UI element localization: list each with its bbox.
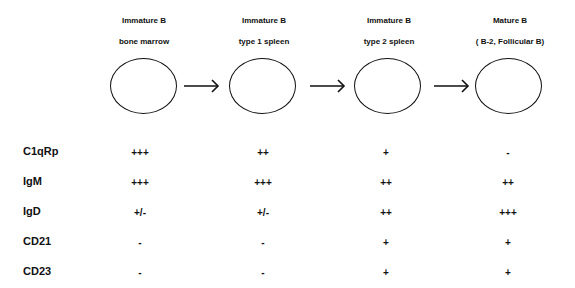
marker-value: +/- [120, 207, 160, 218]
stage-3-subtitle: type 2 spleen [329, 37, 449, 46]
stage-3-title: Immature B [329, 16, 449, 25]
marker-label: IgM [23, 175, 42, 187]
stage-4-cell [475, 58, 542, 114]
marker-value: ++ [488, 177, 528, 188]
stage-2-cell [229, 58, 296, 114]
right-arrow-icon [433, 78, 471, 94]
stage-3-cell [354, 58, 421, 114]
stage-1-title: Immature B [84, 16, 204, 25]
marker-label: CD21 [23, 235, 51, 247]
marker-value: + [366, 267, 406, 278]
marker-value: + [366, 237, 406, 248]
marker-value: - [243, 237, 283, 248]
marker-value: ++ [366, 177, 406, 188]
stage-2-subtitle: type 1 spleen [204, 37, 324, 46]
marker-label: CD23 [23, 265, 51, 277]
stage-2-title: Immature B [204, 16, 324, 25]
marker-label: C1qRp [23, 145, 58, 157]
marker-value: +++ [120, 177, 160, 188]
marker-value: + [488, 267, 528, 278]
marker-value: ++ [366, 207, 406, 218]
stage-1-cell [110, 58, 177, 114]
marker-value: +++ [120, 147, 160, 158]
marker-value: +++ [243, 177, 283, 188]
stage-4-subtitle: ( B-2, Follicular B) [450, 37, 570, 46]
marker-value: - [120, 237, 160, 248]
marker-value: - [243, 267, 283, 278]
marker-label: IgD [23, 205, 41, 217]
stage-4-title: Mature B [450, 16, 570, 25]
marker-value: + [366, 147, 406, 158]
marker-value: +++ [488, 207, 528, 218]
right-arrow-icon [183, 78, 221, 94]
marker-value: + [488, 237, 528, 248]
marker-value: - [120, 267, 160, 278]
right-arrow-icon [309, 78, 347, 94]
marker-value: +/- [243, 207, 283, 218]
marker-value: ++ [243, 147, 283, 158]
stage-1-subtitle: bone marrow [84, 37, 204, 46]
marker-value: - [488, 147, 528, 158]
